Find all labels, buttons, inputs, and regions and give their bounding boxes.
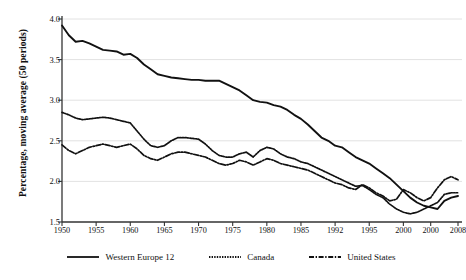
y-axis-tick-label: 3.5 [34,55,60,65]
x-axis-tick-label: 1955 [88,226,104,235]
y-axis-tick-label: 2.5 [34,136,60,146]
legend-label-canada: Canada [247,252,274,262]
y-axis-tick-label: 2.0 [34,176,60,186]
legend-swatch-solid [66,252,100,262]
x-axis-tick-label: 2000 [423,226,439,235]
legend-label-western-europe: Western Europe 12 [105,252,174,262]
x-axis-tick-label: 1970 [190,226,206,235]
x-axis-tick-label: 1980 [259,226,275,235]
y-axis-tick-label: 3.0 [34,95,60,105]
legend-item-western-europe[interactable]: Western Europe 12 [66,252,174,262]
legend-label-united-states: United States [347,252,395,262]
legend-swatch-dashdot [308,252,342,262]
x-axis-tick-label: 1992 [327,226,343,235]
y-axis-tick-label: 4.0 [34,14,60,24]
x-axis-tick-label: 1985 [293,226,309,235]
x-axis-tick-label: 1965 [156,226,172,235]
series-line-canada [62,112,458,214]
x-axis-tick-label: 1950 [54,226,70,235]
legend-swatch-dotted [208,252,242,262]
legend-item-united-states[interactable]: United States [308,252,395,262]
chart-legend: Western Europe 12 Canada United States [0,252,462,262]
x-axis-tick-labels: 1950195519601965197019751980198519921995… [0,226,462,242]
series-line-united-states [62,144,458,201]
x-axis-tick-label: 1975 [225,226,241,235]
x-axis-tick-label: 1995 [361,226,377,235]
legend-item-canada[interactable]: Canada [208,252,274,262]
x-axis-tick-label: 2008 [450,226,466,235]
x-axis-tick-label: 2000 [395,226,411,235]
x-axis-tick-label: 1960 [122,226,138,235]
